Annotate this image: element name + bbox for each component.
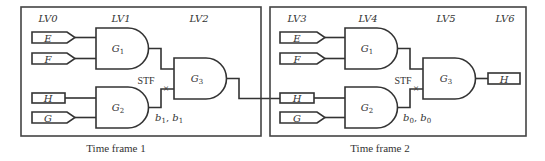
and-gate-g1: G1 [96,28,149,69]
and-gate-g3: G3 [423,58,475,99]
and-gate-g3: G3 [174,58,226,99]
input-e: E [32,32,75,44]
level-label-lv1: LV1 [110,13,130,24]
svg-text:H: H [292,93,302,104]
level-label-lv5: LV5 [435,13,455,24]
fault-label-stf: STF [394,75,412,86]
and-gate-g2: G2 [345,87,398,128]
svg-text:F: F [44,54,53,65]
fault-label-stf: STF [137,75,155,86]
svg-text:G: G [44,113,52,124]
svg-text:H: H [43,93,53,104]
svg-text:H: H [499,74,509,85]
signal-values-b0-b0: b0, b0 [403,112,431,125]
svg-text:G: G [293,113,301,124]
input-e: E [280,32,325,44]
svg-text:E: E [292,33,301,44]
two-time-frame-circuit-diagram: LV0 LV1 LV2 E F H G G1 [0,0,545,161]
and-gate-g2: G2 [96,87,149,128]
time-frame-2: LV3 LV4 LV5 LV6 E F H G G1 [270,7,526,154]
svg-text:F: F [293,54,302,65]
inter-frame-wire [227,79,280,99]
input-h: H [280,93,314,104]
output-h: H [488,73,520,85]
input-g: G [280,112,325,124]
frame-1-caption: Time frame 1 [86,142,145,154]
level-label-lv4: LV4 [357,13,377,24]
signal-values-b1-b1: b1, b1 [155,112,183,125]
level-label-lv2: LV2 [188,13,208,24]
frame-2-caption: Time frame 2 [350,142,409,154]
time-frame-1: LV0 LV1 LV2 E F H G G1 [21,7,261,154]
svg-text:E: E [43,33,52,44]
input-f: F [32,53,75,65]
fault-site-mark: × [163,83,169,94]
and-gate-g1: G1 [345,28,398,69]
level-label-lv0: LV0 [37,13,58,24]
fault-site-mark: × [413,83,419,94]
input-f: F [280,53,325,65]
input-g: G [32,112,75,124]
level-label-lv6: LV6 [494,13,515,24]
level-label-lv3: LV3 [286,13,306,24]
input-h: H [32,93,65,104]
